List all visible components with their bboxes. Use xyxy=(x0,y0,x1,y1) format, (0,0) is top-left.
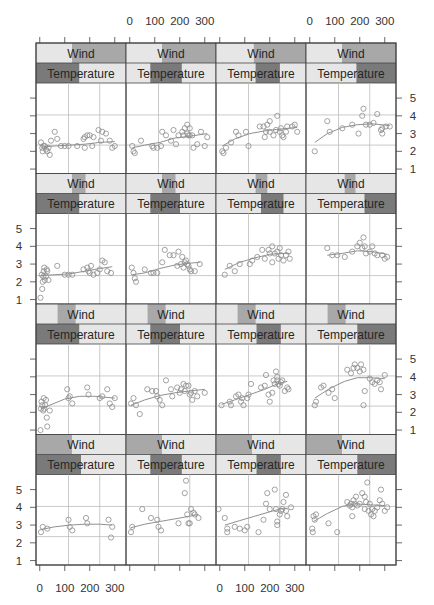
temperature-strip: Temperature xyxy=(126,455,216,475)
data-point xyxy=(202,143,207,148)
temperature-strip-label: Temperature xyxy=(47,197,115,211)
data-point xyxy=(387,124,392,129)
data-point xyxy=(155,270,160,275)
data-point xyxy=(38,427,43,432)
y-tick-label-left: 4 xyxy=(16,240,23,252)
panel: WindTemperature xyxy=(216,174,306,305)
data-points xyxy=(38,385,117,433)
data-point xyxy=(377,498,382,503)
data-point xyxy=(173,142,178,147)
data-point xyxy=(138,138,143,143)
temperature-strip-label: Temperature xyxy=(317,458,385,472)
data-point xyxy=(312,403,317,408)
x-tick-label-bottom: 300 xyxy=(285,582,304,594)
panel: WindTemperature xyxy=(306,174,396,305)
panel: WindTemperature xyxy=(216,43,306,174)
panel: WindTemperature xyxy=(306,435,396,566)
panel: WindTemperature xyxy=(36,174,126,305)
data-points xyxy=(216,487,294,535)
x-tick-label-top: 200 xyxy=(170,15,189,27)
temperature-strip: Temperature xyxy=(306,194,396,214)
x-tick-label-top: 300 xyxy=(375,15,394,27)
data-point xyxy=(107,401,112,406)
wind-strip: Wind xyxy=(216,435,306,455)
data-point xyxy=(183,258,188,263)
data-points xyxy=(325,235,390,261)
y-tick-label-right: 1 xyxy=(410,163,416,175)
data-point xyxy=(38,295,43,300)
data-point xyxy=(65,387,70,392)
loess-smoother-line xyxy=(315,124,390,143)
temperature-strip-label: Temperature xyxy=(47,458,115,472)
panel: WindTemperature xyxy=(36,304,126,435)
temperature-strip: Temperature xyxy=(36,63,126,83)
data-point xyxy=(325,119,330,124)
data-point xyxy=(196,515,201,520)
data-point xyxy=(355,244,360,249)
temperature-strip-label: Temperature xyxy=(47,328,115,342)
data-point xyxy=(243,129,248,134)
panel-grid xyxy=(36,344,126,435)
wind-strip-label: Wind xyxy=(337,438,364,452)
data-point xyxy=(285,385,290,390)
data-point xyxy=(273,369,278,374)
data-point xyxy=(107,138,112,143)
data-point xyxy=(348,371,353,376)
data-point xyxy=(275,113,280,118)
x-tick-label-bottom: 0 xyxy=(217,582,223,594)
y-tick-label-right: 5 xyxy=(410,353,416,365)
y-tick-label-right: 4 xyxy=(410,371,417,383)
wind-strip: Wind xyxy=(36,304,126,324)
data-point xyxy=(262,135,267,140)
data-point xyxy=(160,260,165,265)
data-point xyxy=(202,390,207,395)
data-point xyxy=(171,127,176,132)
wind-strip-label: Wind xyxy=(337,308,364,322)
wind-strip: Wind xyxy=(306,435,396,455)
temperature-strip-label: Temperature xyxy=(227,328,295,342)
data-points xyxy=(38,258,114,300)
x-tick-label-bottom: 100 xyxy=(235,582,254,594)
data-point xyxy=(45,424,50,429)
x-tick-label-top: 0 xyxy=(127,15,133,27)
data-point xyxy=(270,244,275,249)
temperature-strip: Temperature xyxy=(126,324,216,344)
data-point xyxy=(295,129,300,134)
data-point xyxy=(335,530,340,535)
temperature-strip: Temperature xyxy=(36,324,126,344)
wind-strip-label: Wind xyxy=(67,308,94,322)
y-tick-label-right: 5 xyxy=(410,92,416,104)
data-point xyxy=(385,505,390,510)
data-point xyxy=(83,515,88,520)
data-point xyxy=(46,277,51,282)
data-point xyxy=(108,535,113,540)
data-point xyxy=(195,142,200,147)
data-point xyxy=(285,514,290,519)
temperature-strip-label: Temperature xyxy=(137,328,205,342)
data-point xyxy=(191,510,196,515)
wind-strip: Wind xyxy=(216,174,306,194)
data-point xyxy=(140,507,145,512)
wind-strip: Wind xyxy=(126,174,216,194)
wind-strip: Wind xyxy=(306,43,396,63)
data-point xyxy=(44,415,49,420)
panel-grid xyxy=(36,475,126,566)
data-point xyxy=(233,129,238,134)
data-point xyxy=(310,530,315,535)
data-point xyxy=(263,372,268,377)
panel: WindTemperature xyxy=(36,43,126,174)
wind-strip: Wind xyxy=(36,435,126,455)
data-point xyxy=(47,408,52,413)
data-point xyxy=(238,399,243,404)
temperature-strip-label: Temperature xyxy=(137,458,205,472)
data-point xyxy=(362,494,367,499)
data-point xyxy=(70,528,75,533)
data-point xyxy=(131,149,136,154)
panel: WindTemperature xyxy=(306,304,396,435)
data-point xyxy=(222,272,227,277)
temperature-strip-label: Temperature xyxy=(227,197,295,211)
data-point xyxy=(190,397,195,402)
panel-grid xyxy=(36,83,126,174)
data-point xyxy=(182,491,187,496)
data-point xyxy=(267,119,272,124)
